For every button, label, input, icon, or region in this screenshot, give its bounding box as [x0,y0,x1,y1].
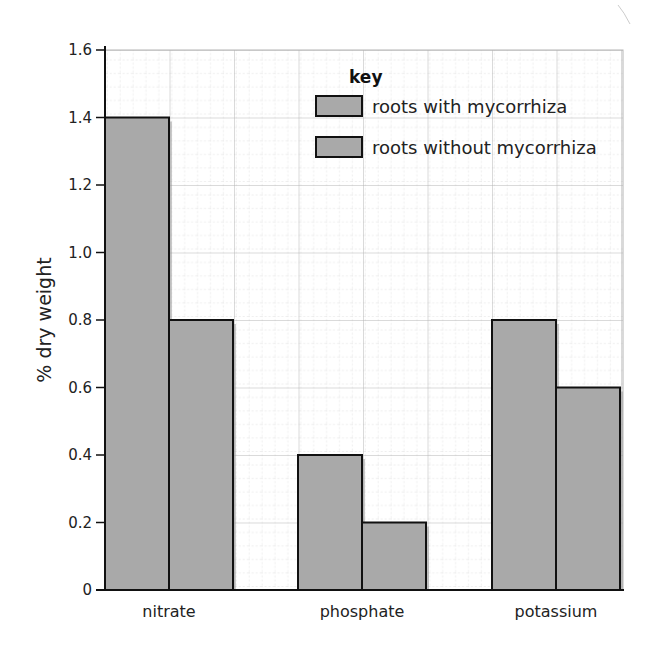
y-tick-label: 0.8 [68,311,92,329]
y-tick-label: 0.6 [68,379,92,397]
y-tick-label: 1.6 [68,41,92,59]
bar-potassium-without-mycorrhiza [556,388,620,591]
bar-phosphate-without-mycorrhiza [362,523,426,591]
category-label-phosphate: phosphate [320,602,405,621]
y-tick-label: 1.0 [68,244,92,262]
legend-swatch-with-mycorrhiza [316,96,362,116]
legend-label-without-mycorrhiza: roots without mycorrhiza [372,137,597,158]
x-category-labels: nitrate phosphate potassium [142,602,597,621]
legend-label-with-mycorrhiza: roots with mycorrhiza [372,96,567,117]
bar-nitrate-without-mycorrhiza [169,320,233,590]
bar-chart: 0 0.2 0.4 0.6 0.8 1.0 1.2 1.4 1.6 % dry … [0,0,664,665]
y-tick-label: 1.4 [68,109,92,127]
category-label-nitrate: nitrate [142,602,195,621]
y-axis-title: % dry weight [33,257,55,382]
bar-nitrate-with-mycorrhiza [105,118,169,591]
legend-swatch-without-mycorrhiza [316,137,362,157]
bar-phosphate-with-mycorrhiza [298,455,362,590]
legend: key roots with mycorrhiza roots without … [310,67,630,170]
stray-mark [618,5,630,24]
bar-potassium-with-mycorrhiza [492,320,556,590]
y-tick-label: 0.4 [68,446,92,464]
y-tick-label: 1.2 [68,176,92,194]
y-tick-label: 0.2 [68,514,92,532]
legend-title: key [349,67,382,87]
y-tick-label: 0 [82,581,92,599]
category-label-potassium: potassium [515,602,598,621]
y-ticks: 0 0.2 0.4 0.6 0.8 1.0 1.2 1.4 1.6 [68,41,105,599]
